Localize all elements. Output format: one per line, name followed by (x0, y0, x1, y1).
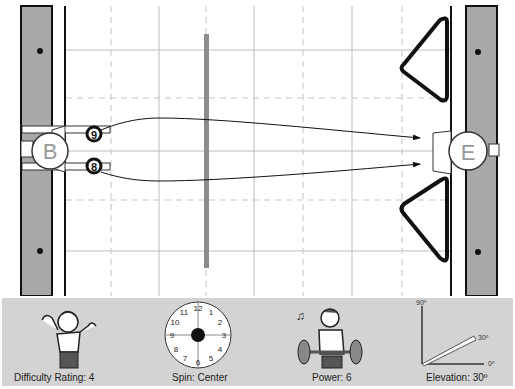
power-section: ♫ Power: 6 (287, 298, 397, 386)
elevation-90-label: 90º (416, 299, 427, 306)
elevation-30-label: 30º (478, 334, 489, 341)
left-rail-dot-bottom (37, 248, 43, 254)
svg-text:8: 8 (174, 345, 179, 354)
difficulty-section: Difficulty Rating: 4 (2, 298, 132, 386)
elevation-label: Elevation: 30º (426, 372, 487, 383)
svg-text:10: 10 (171, 318, 180, 327)
spin-label: Spin: Center (172, 372, 228, 383)
start-marker-label: B (43, 139, 58, 164)
spin-section: 12 1 2 3 4 5 6 7 8 9 10 11 Spin: Center (162, 298, 262, 386)
elevation-section: 90º 30º 0º Elevation: 30º (412, 298, 512, 386)
svg-text:3: 3 (222, 331, 227, 340)
weightlifter-icon: ♫ (292, 304, 372, 370)
svg-text:6: 6 (196, 358, 201, 367)
svg-text:12: 12 (194, 304, 203, 313)
shrugging-person-icon (34, 304, 104, 370)
svg-text:5: 5 (209, 354, 214, 363)
trajectory-ball-8 (101, 164, 420, 181)
end-marker-label: E (461, 140, 476, 165)
elevation-angle-icon: 90º 30º 0º (412, 298, 512, 372)
spin-point (191, 328, 205, 342)
elevation-0-label: 0º (488, 360, 495, 367)
svg-text:7: 7 (183, 354, 188, 363)
svg-text:8: 8 (91, 161, 97, 173)
svg-text:2: 2 (218, 318, 223, 327)
power-label: Power: 6 (312, 372, 351, 383)
shot-parameters-panel: Difficulty Rating: 4 12 1 2 3 4 5 6 7 8 … (2, 298, 513, 386)
svg-text:♫: ♫ (296, 309, 305, 323)
center-bar (204, 34, 209, 268)
clock-dial-icon: 12 1 2 3 4 5 6 7 8 9 10 11 (163, 300, 233, 370)
left-rail-dot-top (37, 48, 43, 54)
right-rail-dot-bottom (475, 249, 481, 255)
right-rail-dot-top (475, 49, 481, 55)
svg-text:9: 9 (170, 331, 175, 340)
lower-triangle (402, 178, 448, 260)
ball-9: 9 (87, 127, 101, 141)
difficulty-label: Difficulty Rating: 4 (14, 372, 94, 383)
ball-8: 8 (87, 159, 101, 173)
svg-text:11: 11 (180, 308, 189, 317)
svg-text:1: 1 (209, 308, 214, 317)
grid (66, 6, 450, 296)
upper-triangle (402, 18, 448, 100)
shot-field-diagram: B E 9 8 (0, 0, 515, 296)
svg-text:9: 9 (91, 129, 97, 141)
svg-text:4: 4 (218, 345, 223, 354)
trajectory-ball-9 (101, 118, 420, 138)
